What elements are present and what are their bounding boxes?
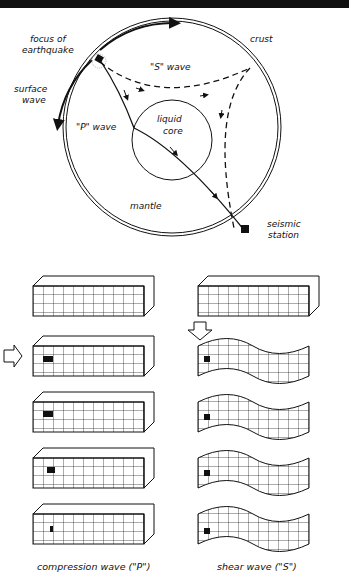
seismic-diagram: focus of earthquake crust "S" wave surfa…: [0, 0, 349, 586]
compression-wave-blocks: [4, 276, 154, 544]
caption-compression: compression wave ("P"): [37, 561, 150, 572]
arrow-p-icon: [4, 345, 22, 367]
label-mantle: mantle: [130, 201, 162, 211]
label-core-2: core: [163, 126, 183, 136]
caption-shear: shear wave ("S"): [217, 561, 297, 572]
arrow-s-icon: [188, 322, 212, 340]
label-s-wave: "S" wave: [150, 62, 191, 72]
label-p-wave: "P" wave: [76, 122, 117, 132]
focus-marker: [94, 54, 104, 64]
seismic-station-marker: [241, 225, 249, 233]
label-core-1: liquid: [157, 114, 182, 124]
label-crust: crust: [250, 34, 273, 44]
shear-wave-blocks: [188, 276, 319, 552]
label-surface-2: wave: [22, 95, 46, 105]
label-surface-1: surface: [14, 84, 48, 94]
label-station-2: station: [268, 230, 299, 240]
label-focus-1: focus of: [30, 34, 67, 44]
label-station-1: seismic: [267, 219, 301, 229]
liquid-core: [132, 100, 212, 180]
label-focus-2: earthquake: [22, 45, 74, 55]
